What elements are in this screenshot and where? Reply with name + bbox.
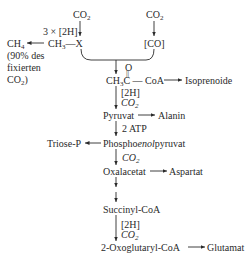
- step1-co2: CO2: [121, 97, 138, 108]
- acetyl-coa: CH3C — CoA: [106, 75, 164, 86]
- alanin: Alanin: [158, 110, 185, 121]
- methane-note-1: (90% des: [7, 50, 45, 61]
- aspartat: Aspartat: [169, 166, 203, 177]
- pyruvat: Pyruvat: [103, 110, 134, 121]
- glutamat: Glutamat: [207, 242, 244, 253]
- oxoglutaryl-coa: 2-Oxoglutaryl-CoA: [101, 242, 180, 253]
- methyl-x: CH3—X: [48, 38, 83, 49]
- co2-right: CO2: [146, 9, 163, 20]
- methane-note-3: CO2): [7, 74, 28, 85]
- co2-left: CO2: [73, 9, 90, 20]
- isoprenoide: Isoprenoide: [185, 75, 232, 86]
- methane-note-2: fixierten: [7, 62, 41, 73]
- methane: CH4: [7, 38, 24, 49]
- succinyl-coa: Succinyl-CoA: [103, 204, 160, 215]
- step3-co2: CO2: [122, 152, 139, 163]
- step4-co2: CO2: [121, 229, 138, 240]
- reductant-label: 3 × [2H]: [43, 26, 78, 37]
- step2-atp: 2 ATP: [122, 123, 147, 134]
- oxalacetat: Oxalacetat: [103, 166, 146, 177]
- triose-p: Triose-P: [47, 138, 81, 149]
- phosphoenolpyruvat: Phosphoenolpyruvat: [103, 138, 185, 149]
- carbon-monoxide: [CO]: [144, 38, 165, 49]
